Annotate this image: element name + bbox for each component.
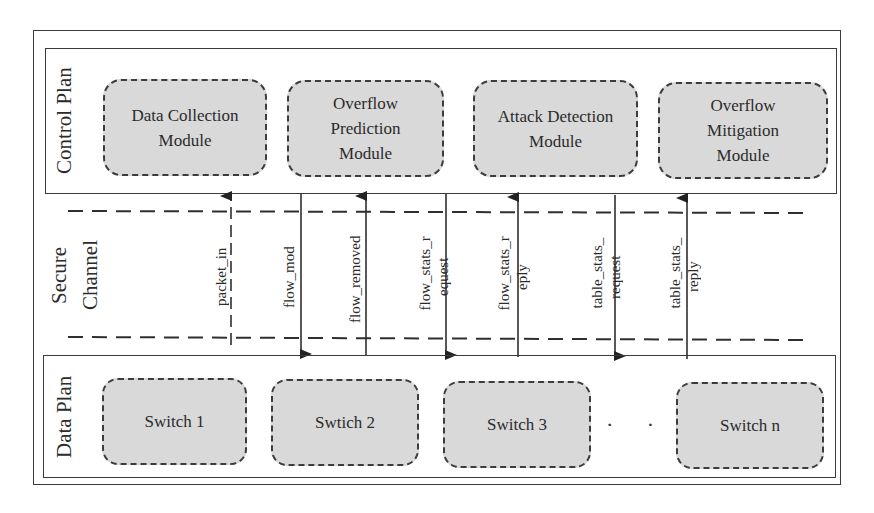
flow-stats-reply-label: flow_stats_reply (477, 222, 531, 332)
flow-mod-label: flow_mod (280, 222, 298, 332)
switch-3: Switch 3 (443, 381, 591, 468)
flow-removed-label: flow_removed (346, 220, 364, 338)
label-line2: reply (685, 262, 701, 293)
data-plane-label: Data Plan (52, 362, 76, 472)
switch-label: Swtich 2 (315, 410, 375, 435)
label-line1: flow_stats_r (496, 236, 512, 310)
flow-stats-request-label: flow_stats_request (398, 222, 452, 332)
table-stats-request-label: table_stats_request (570, 222, 624, 332)
channel-top-dashed-line (68, 211, 808, 213)
switch-1: Switch 1 (102, 378, 247, 465)
label-line2: request (607, 255, 623, 298)
label-line1: table_stats_ (667, 238, 683, 309)
label-line1: table_stats_ (589, 238, 605, 309)
packet-in-label: packet_in (212, 222, 230, 332)
switch-n: Switch n (676, 382, 824, 469)
channel-bottom-dashed-line (68, 337, 808, 340)
table-stats-reply-label: table_stats_reply (648, 222, 702, 332)
switch-label: Switch 1 (145, 409, 205, 434)
switch-label: Switch n (720, 413, 780, 438)
switch-label: Switch 3 (487, 412, 547, 437)
label-line2: equest (435, 258, 451, 296)
switch-2: Swtich 2 (271, 379, 419, 466)
label-line2: eply (514, 264, 530, 290)
label-line1: flow_stats_r (417, 236, 433, 310)
